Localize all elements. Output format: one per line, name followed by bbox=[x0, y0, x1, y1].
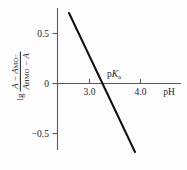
figure-container: 0.5 0 −0.5 3.0 4.0 pH pKa lg A − AMO− AH… bbox=[0, 0, 187, 170]
y-ticklabel-2: −0.5 bbox=[32, 129, 49, 139]
x-ticklabel-1: 4.0 bbox=[135, 87, 147, 97]
y-ticklabel-0: 0.5 bbox=[37, 29, 49, 39]
pka-subscript: a bbox=[118, 73, 121, 80]
plot-canvas: 0.5 0 −0.5 3.0 4.0 pH pKa bbox=[0, 0, 187, 170]
data-series-titration-line bbox=[69, 13, 135, 152]
y-ticklabel-1: 0 bbox=[44, 79, 49, 89]
x-ticklabel-0: 3.0 bbox=[84, 87, 96, 97]
pka-annotation: pKa bbox=[107, 69, 121, 80]
x-axis-label: pH bbox=[163, 87, 175, 97]
